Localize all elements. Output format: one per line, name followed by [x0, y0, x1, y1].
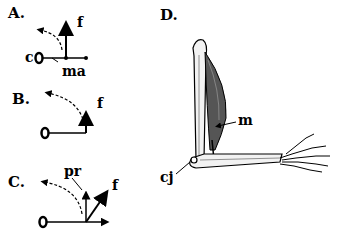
center-joint-label: cj — [160, 170, 174, 184]
pivot-icon — [42, 128, 49, 138]
panel-c-force-label: f — [112, 178, 118, 192]
panel-b-label: B. — [12, 92, 30, 107]
rotation-arrow — [48, 93, 84, 124]
humerus-bone — [193, 40, 207, 160]
panel-a-label: A. — [8, 6, 25, 21]
biceps-muscle — [205, 52, 226, 150]
panel-c-perpendicular-label: pr — [64, 164, 81, 178]
panel-a-force-label: f — [77, 15, 83, 29]
rotation-arrow — [40, 30, 62, 50]
panel-a-moment-arm-label: ma — [62, 64, 86, 78]
panel-b-figure — [42, 93, 87, 138]
muscle-label: m — [238, 113, 253, 127]
panel-b-force-label: f — [97, 96, 103, 110]
panel-c-figure — [40, 178, 106, 227]
panel-d-label: D. — [160, 8, 178, 23]
pivot-icon — [36, 53, 43, 63]
joint-center-icon — [191, 157, 197, 163]
forearm-bones — [190, 154, 282, 168]
pivot-icon — [40, 217, 47, 227]
arm-illustration — [190, 40, 330, 172]
panel-a-center-label: c — [25, 50, 34, 64]
force-arrow — [86, 196, 104, 222]
hand-bones — [280, 134, 330, 172]
rotation-arrow — [44, 182, 82, 214]
panel-a-figure — [36, 28, 89, 63]
panel-c-label: C. — [8, 175, 25, 190]
diagram-canvas — [0, 0, 343, 235]
